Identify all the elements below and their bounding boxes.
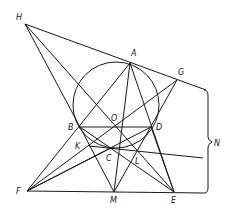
point-label-h: H <box>16 13 22 22</box>
point-label-d: D <box>156 123 162 132</box>
point-label-f: F <box>16 187 21 196</box>
segment <box>25 24 114 192</box>
point-label-g: G <box>178 68 184 77</box>
point-label-l: L <box>135 157 139 166</box>
segment <box>25 24 206 90</box>
segment <box>27 191 204 193</box>
brace <box>204 90 212 193</box>
point-label-m: M <box>110 196 117 205</box>
point-label-o: O <box>111 114 117 123</box>
point-label-b: B <box>68 123 74 132</box>
geometry-diagram: N HAGBODKCLFME <box>0 0 234 216</box>
point-label-e: E <box>171 196 177 205</box>
segment <box>80 127 174 192</box>
point-label-a: A <box>130 49 136 58</box>
point-label-c: C <box>106 154 112 163</box>
segment <box>151 127 174 192</box>
brace-label: N <box>214 139 220 148</box>
point-label-k: K <box>75 142 81 151</box>
segment <box>27 148 111 191</box>
segment <box>25 24 174 192</box>
